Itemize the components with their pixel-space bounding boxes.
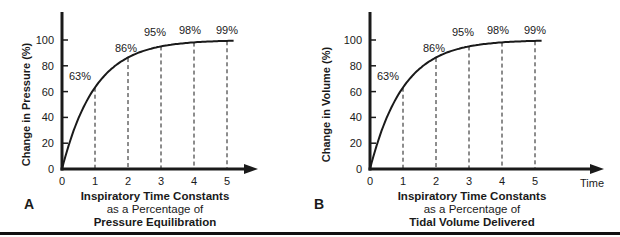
percent-annotation: 63% bbox=[69, 70, 91, 82]
y-tick-label: 40 bbox=[350, 111, 362, 123]
x-tick-label: 4 bbox=[191, 175, 197, 187]
x-axis-arrow-icon bbox=[590, 164, 604, 174]
percent-annotation: 95% bbox=[452, 26, 474, 38]
y-tick-label: 40 bbox=[42, 111, 54, 123]
x-tick-label: 4 bbox=[499, 175, 505, 187]
x-tick-label: 2 bbox=[125, 175, 131, 187]
x-axis-caption-b: Inspiratory Time Constants as a Percenta… bbox=[382, 190, 562, 229]
x-tick-label: 2 bbox=[433, 175, 439, 187]
y-tick-label: 20 bbox=[350, 137, 362, 149]
y-tick-label: 100 bbox=[344, 34, 362, 46]
y-tick-label: 0 bbox=[356, 163, 362, 175]
panel-letter-a: A bbox=[24, 196, 34, 212]
x-axis-arrow-icon bbox=[244, 164, 258, 174]
y-axis-title: Change in Pressure (%) bbox=[20, 42, 32, 166]
x-tick-label: 5 bbox=[532, 175, 538, 187]
panel-a: 02040608010001234563%86%95%98%99%Change … bbox=[0, 0, 310, 232]
y-tick-label: 0 bbox=[48, 163, 54, 175]
y-tick-label: 100 bbox=[36, 34, 54, 46]
y-axis-title: Change in Volume (%) bbox=[320, 47, 332, 163]
data-curve bbox=[370, 41, 542, 169]
caption-line-1: Inspiratory Time Constants bbox=[65, 190, 245, 203]
percent-annotation: 63% bbox=[377, 70, 399, 82]
x-tick-label: 1 bbox=[92, 175, 98, 187]
caption-line-1: Inspiratory Time Constants bbox=[382, 190, 562, 203]
x-tick-label: 0 bbox=[59, 175, 65, 187]
y-tick-label: 20 bbox=[42, 137, 54, 149]
y-tick-label: 60 bbox=[350, 86, 362, 98]
x-axis-caption-a: Inspiratory Time Constants as a Percenta… bbox=[65, 190, 245, 229]
x-tick-label: 3 bbox=[158, 175, 164, 187]
percent-annotation: 86% bbox=[115, 42, 137, 54]
percent-annotation: 98% bbox=[487, 24, 509, 36]
caption-line-2: as a Percentage of bbox=[65, 203, 245, 216]
panel-b: 02040608010001234563%86%95%98%99%Change … bbox=[308, 0, 618, 232]
caption-line-2: as a Percentage of bbox=[382, 203, 562, 216]
caption-line-3: Tidal Volume Delivered bbox=[382, 216, 562, 229]
y-tick-label: 80 bbox=[350, 60, 362, 72]
percent-annotation: 86% bbox=[423, 42, 445, 54]
bottom-divider bbox=[0, 232, 620, 235]
time-axis-label: Time bbox=[580, 177, 604, 189]
y-tick-label: 60 bbox=[42, 86, 54, 98]
x-tick-label: 5 bbox=[224, 175, 230, 187]
x-tick-label: 0 bbox=[367, 175, 373, 187]
caption-line-3: Pressure Equilibration bbox=[65, 216, 245, 229]
x-tick-label: 1 bbox=[400, 175, 406, 187]
percent-annotation: 99% bbox=[216, 24, 238, 36]
y-tick-label: 80 bbox=[42, 60, 54, 72]
data-curve bbox=[62, 41, 234, 169]
percent-annotation: 99% bbox=[524, 24, 546, 36]
panel-letter-b: B bbox=[314, 196, 324, 212]
percent-annotation: 98% bbox=[179, 24, 201, 36]
x-tick-label: 3 bbox=[466, 175, 472, 187]
percent-annotation: 95% bbox=[144, 26, 166, 38]
